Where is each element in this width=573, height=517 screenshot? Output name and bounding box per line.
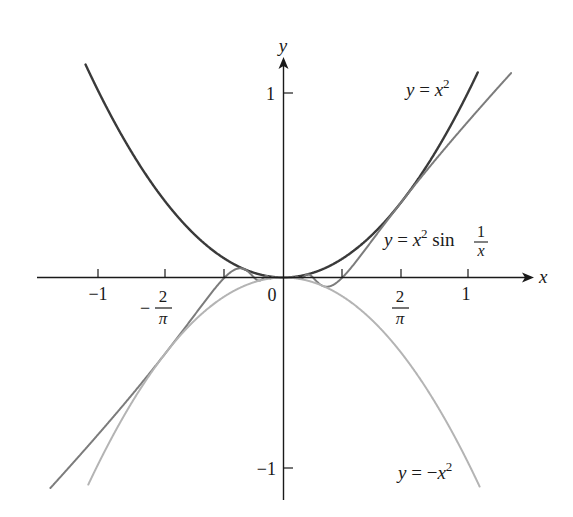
x-tick-label-neg1: −1 [88,284,107,304]
curve-x-squared-sin-inv-x [50,73,511,488]
y-tick-label-neg1: −1 [257,459,276,479]
svg-text:2: 2 [159,287,168,306]
svg-text:π: π [159,309,168,328]
svg-text:x: x [476,242,484,259]
y-tick-label-1: 1 [266,84,275,104]
origin-label: 0 [268,285,277,305]
svg-text:2: 2 [396,287,405,306]
curves-group [50,65,511,488]
annotation-x-squared: y = x2 [404,76,450,100]
function-plot: x −1 − 2 π 0 2 π 1 y 1 −1 y = x2 [0,0,573,517]
svg-text:1: 1 [477,223,485,240]
x-tick-label-neg-2-over-pi: − 2 π [140,287,172,328]
x-tick-label-1: 1 [462,284,471,304]
y-axis-label: y [277,35,288,56]
svg-text:−: − [140,298,150,318]
x-axis-label: x [538,266,548,287]
annotation-x-squared-sin: y = x2 sin 1 x [382,223,488,259]
x-axis: x −1 − 2 π 0 2 π 1 [37,266,548,328]
svg-text:y = x2 sin: y = x2 sin [382,226,455,250]
y-axis: y 1 −1 [257,35,293,500]
x-tick-label-2-over-pi: 2 π [392,287,409,328]
annotation-neg-x-squared: y = −x2 [396,459,452,483]
svg-text:π: π [396,309,405,328]
